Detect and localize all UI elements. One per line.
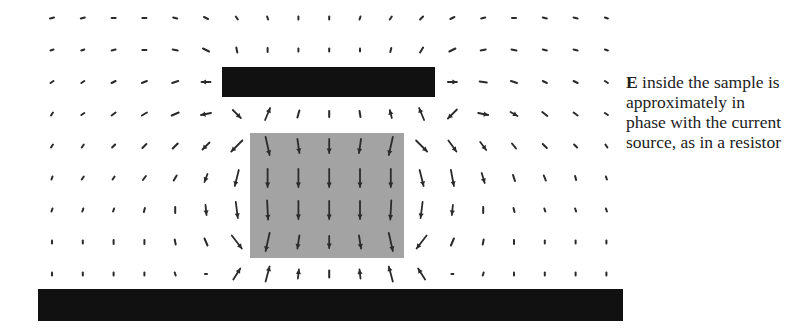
field-arrow	[450, 17, 454, 19]
field-arrow	[112, 50, 116, 51]
field-arrow	[605, 145, 607, 148]
field-arrow	[420, 48, 423, 53]
arrowhead	[265, 215, 270, 220]
field-diagram: E inside the sample is approximately in …	[0, 0, 786, 334]
arrowhead	[296, 215, 301, 220]
field-arrow	[267, 17, 268, 20]
field-arrow	[204, 17, 208, 19]
arrowhead	[265, 183, 270, 188]
arrowhead	[296, 183, 301, 188]
arrowhead	[327, 244, 332, 249]
field-arrow	[175, 273, 176, 276]
field-arrow	[112, 113, 116, 116]
field-arrow	[173, 18, 177, 19]
field-arrow	[203, 49, 209, 52]
field-arrow	[481, 50, 486, 51]
field-arrow	[575, 176, 576, 180]
field-arrow	[360, 111, 361, 117]
field-arrow	[574, 50, 578, 51]
field-arrow	[543, 18, 547, 19]
field-arrow	[511, 81, 517, 83]
field-arrow	[360, 17, 361, 20]
field-arrow	[483, 240, 484, 245]
field-arrow	[143, 176, 146, 180]
field-arrow	[513, 175, 515, 181]
field-arrow	[543, 50, 547, 51]
field-arrow	[82, 145, 84, 148]
field-arrow	[574, 81, 578, 83]
field-arrow	[81, 113, 84, 115]
field-arrow	[544, 209, 545, 212]
field-arrow	[574, 145, 577, 148]
field-arrow	[606, 177, 607, 180]
field-arrow	[81, 81, 84, 83]
field-arrow	[605, 113, 608, 115]
field-arrow	[451, 239, 454, 246]
field-arrow	[544, 176, 546, 181]
arrowhead	[357, 215, 362, 220]
field-arrow	[390, 48, 391, 52]
arrowhead	[357, 270, 362, 275]
field-arrow	[174, 176, 177, 181]
field-arrow	[297, 111, 299, 118]
field-arrow	[51, 50, 54, 51]
field-arrow	[50, 18, 54, 19]
field-arrow	[173, 144, 178, 149]
electric-field-vector-plot	[0, 0, 786, 334]
field-arrow	[605, 18, 608, 19]
field-arrow	[175, 240, 176, 245]
arrowhead	[296, 270, 301, 275]
field-arrow	[51, 113, 53, 116]
field-arrow	[481, 18, 485, 19]
field-arrow	[574, 18, 578, 19]
arrowhead	[327, 215, 332, 220]
field-arrow	[81, 18, 85, 19]
field-arrow	[172, 113, 179, 116]
field-arrow	[390, 17, 392, 20]
field-arrow	[113, 209, 114, 212]
field-arrow	[575, 209, 576, 212]
field-arrow	[514, 208, 515, 212]
field-arrow	[543, 81, 547, 83]
field-arrow	[142, 144, 146, 148]
field-arrow	[81, 50, 84, 51]
field-arrow	[449, 49, 455, 52]
field-arrow	[112, 145, 115, 148]
arrowhead	[202, 79, 207, 84]
field-arrow	[606, 209, 607, 212]
field-arrow	[51, 81, 54, 83]
arrowhead	[327, 183, 332, 188]
field-arrow	[82, 177, 84, 180]
arrowhead	[450, 210, 455, 215]
field-arrow	[605, 81, 608, 83]
field-arrow	[543, 144, 547, 148]
arrowhead	[388, 183, 393, 188]
field-arrow	[236, 17, 238, 20]
field-arrow	[142, 81, 147, 83]
field-arrow	[82, 209, 83, 212]
field-arrow	[542, 112, 547, 116]
field-arrow	[113, 177, 115, 180]
field-arrow	[420, 17, 423, 20]
field-arrow	[512, 144, 516, 149]
field-arrow	[112, 81, 116, 83]
field-arrow	[480, 82, 487, 83]
field-arrow	[205, 239, 208, 246]
arrowhead	[452, 79, 457, 84]
field-arrow	[142, 113, 147, 116]
field-arrow	[483, 273, 484, 276]
field-arrow	[144, 208, 145, 212]
field-arrow	[172, 81, 178, 83]
field-arrow	[605, 50, 608, 51]
field-arrow	[173, 50, 178, 51]
field-arrow	[52, 209, 53, 212]
field-arrow	[236, 48, 237, 53]
arrowhead	[388, 215, 393, 220]
field-arrow	[51, 145, 53, 148]
arrowhead	[357, 183, 362, 188]
arrowhead	[327, 149, 332, 154]
arrowhead	[203, 210, 208, 215]
field-arrow	[52, 177, 53, 180]
field-arrow	[574, 113, 578, 116]
field-arrow	[512, 50, 517, 51]
